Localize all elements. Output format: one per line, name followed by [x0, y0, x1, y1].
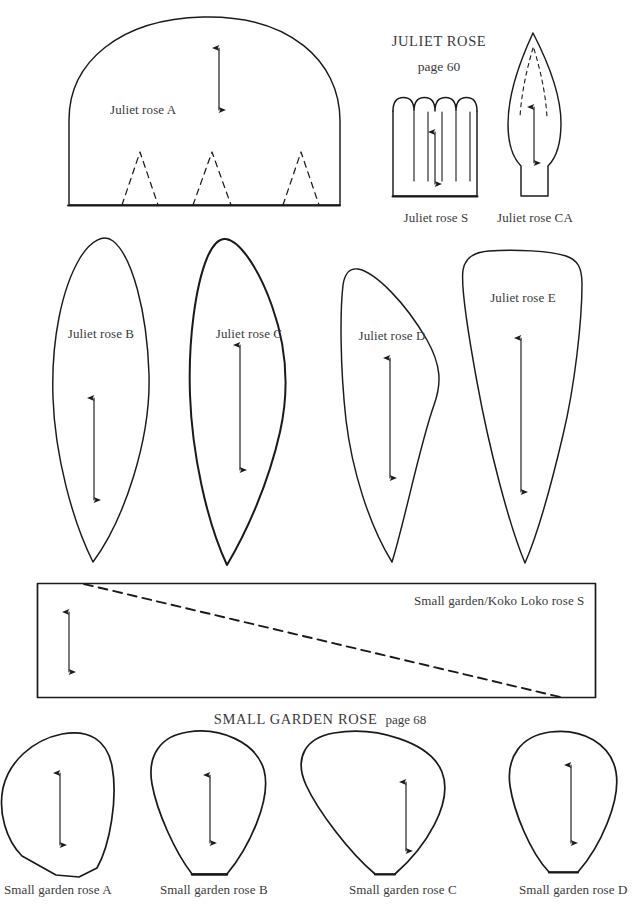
heading-small-garden-rose: SMALL GARDEN ROSE page 68 [214, 710, 426, 728]
heading-juliet-rose-page: page 60 [418, 59, 460, 75]
label-juliet-rose-c: Juliet rose C [216, 326, 282, 342]
label-juliet-rose-e: Juliet rose E [490, 290, 556, 306]
label-small-garden-rose-b: Small garden rose B [160, 882, 268, 898]
label-juliet-rose-ca: Juliet rose CA [497, 210, 573, 226]
slit-lines-juliet-rose-s [414, 112, 470, 181]
heading-juliet-rose: JULIET ROSE [392, 33, 487, 50]
label-small-garden-rose-d: Small garden rose D [519, 882, 627, 898]
heading-small-garden-rose-page: page 68 [385, 712, 426, 727]
shape-small-garden-rose-a [2, 733, 115, 877]
label-juliet-rose-a: Juliet rose A [110, 102, 176, 118]
label-koko-loko-rose-s: Small garden/Koko Loko rose S [414, 593, 584, 609]
shape-juliet-rose-a [68, 17, 340, 206]
shape-juliet-rose-b [53, 238, 149, 562]
pattern-template-sheet: JULIET ROSE page 60 Juliet rose A Juliet… [0, 0, 640, 920]
label-small-garden-rose-c: Small garden rose C [349, 882, 457, 898]
shape-small-garden-rose-b [151, 731, 266, 874]
shape-juliet-rose-c [190, 239, 286, 565]
label-small-garden-rose-a: Small garden rose A [4, 882, 112, 898]
template-shapes-drawing [0, 0, 640, 920]
label-juliet-rose-d: Juliet rose D [358, 328, 425, 344]
dart-lines-juliet-rose-a [122, 152, 319, 205]
label-juliet-rose-s: Juliet rose S [404, 210, 469, 226]
shape-small-garden-rose-d [509, 731, 616, 872]
label-juliet-rose-b: Juliet rose B [68, 326, 134, 342]
heading-small-garden-rose-title: SMALL GARDEN ROSE [214, 711, 378, 727]
shape-small-garden-rose-c [301, 731, 445, 874]
